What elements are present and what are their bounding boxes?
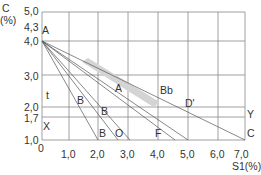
svg-text:4,0: 4,0: [24, 35, 39, 47]
svg-text:B: B: [77, 94, 84, 106]
svg-text:7,0: 7,0: [234, 148, 249, 160]
y-axis-unit: (%): [0, 14, 16, 26]
svg-text:X: X: [43, 120, 50, 132]
svg-text:3,0: 3,0: [24, 70, 39, 82]
svg-text:A: A: [115, 82, 122, 94]
chart: C (%) 5,0 4,3 4,0 3,0 2,0 1,7 1,0 0 1,0 …: [0, 0, 261, 175]
svg-text:4,0: 4,0: [150, 148, 165, 160]
svg-text:t: t: [46, 89, 49, 101]
svg-text:D': D': [185, 97, 195, 109]
svg-text:O: O: [115, 127, 123, 139]
svg-text:Bb: Bb: [160, 84, 173, 96]
svg-text:1,0: 1,0: [24, 134, 39, 146]
x-ticks: 0 1,0 2,0 3,0 4,0 5,0 6,0 7,0: [38, 142, 249, 160]
svg-text:Y: Y: [247, 108, 254, 120]
svg-text:B: B: [101, 105, 108, 117]
y-axis-label: C: [2, 2, 10, 14]
svg-text:0: 0: [38, 142, 44, 154]
svg-text:A: A: [42, 24, 49, 36]
svg-text:1,0: 1,0: [61, 148, 76, 160]
svg-text:F: F: [155, 127, 161, 139]
svg-text:1,7: 1,7: [24, 112, 39, 124]
lines: [42, 41, 245, 140]
svg-text:5,0: 5,0: [180, 148, 195, 160]
svg-text:3,0: 3,0: [120, 148, 135, 160]
y-ticks: 5,0 4,3 4,0 3,0 2,0 1,7 1,0: [24, 5, 39, 146]
svg-text:6,0: 6,0: [210, 148, 225, 160]
svg-text:C: C: [247, 127, 255, 139]
svg-text:B: B: [99, 127, 106, 139]
svg-text:4,3: 4,3: [24, 21, 39, 33]
x-axis-label: S1(%): [232, 160, 261, 172]
svg-text:2,0: 2,0: [90, 148, 105, 160]
svg-text:5,0: 5,0: [24, 5, 39, 17]
grid: [42, 12, 245, 140]
